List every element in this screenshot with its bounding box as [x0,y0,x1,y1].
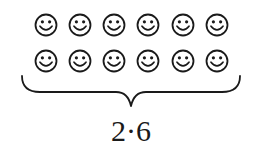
multiplication-expression: 2·6 [0,114,254,148]
smiley-face-icon [70,51,91,72]
smiley-face-icon [207,15,228,36]
smiley-face-icon [36,51,57,72]
smiley-face-icon [104,51,125,72]
smiley-grid [36,15,228,72]
smiley-face-icon [36,15,57,36]
smiley-face-icon [70,15,91,36]
smiley-face-icon [207,51,228,72]
curly-brace [22,76,240,106]
smiley-face-icon [104,15,125,36]
smiley-row-1 [36,15,228,36]
smiley-face-icon [138,51,159,72]
smiley-row-2 [36,51,228,72]
smiley-face-icon [173,51,194,72]
smiley-face-icon [173,15,194,36]
smiley-face-icon [138,15,159,36]
